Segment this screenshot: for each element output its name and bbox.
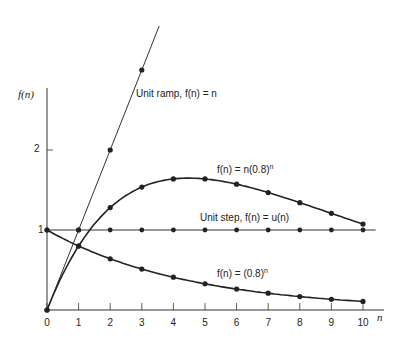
x-tick-label: 0 [44, 317, 50, 328]
x-tick-label: 9 [329, 317, 335, 328]
weighted-decay-point [139, 185, 144, 190]
weighted-decay-point [234, 182, 239, 187]
weighted-decay-curve [47, 178, 363, 310]
decay-point [44, 227, 49, 232]
weighted-decay-point [297, 200, 302, 205]
x-tick-label: 7 [265, 317, 271, 328]
weighted-decay-point [108, 205, 113, 210]
decay-label: f(n) = (0.8)n [217, 267, 268, 279]
step-point [108, 228, 113, 233]
x-tick-label: 4 [171, 317, 177, 328]
step-label: Unit step, f(n) = u(n) [200, 212, 289, 223]
y-tick-2: 2 [34, 143, 40, 154]
decay-point [360, 299, 365, 304]
x-tick-label: 2 [107, 317, 113, 328]
step-point [234, 228, 239, 233]
decay-curve [47, 230, 363, 301]
x-tick-label: 5 [202, 317, 208, 328]
decay-point [297, 294, 302, 299]
decay-point [234, 286, 239, 291]
step-point [297, 228, 302, 233]
decay-point [171, 275, 176, 280]
x-tick-label: 10 [357, 317, 369, 328]
step-point [171, 228, 176, 233]
x-tick-label: 1 [76, 317, 82, 328]
step-point [203, 228, 208, 233]
plot-area: 012345678910 [0, 0, 405, 343]
weighted-decay-point [360, 221, 365, 226]
step-point [329, 228, 334, 233]
step-point [361, 228, 366, 233]
ramp-label: Unit ramp, f(n) = n [136, 88, 217, 99]
x-tick-label: 8 [297, 317, 303, 328]
chart: 012345678910 f(n) 2 1 n Unit ramp, f(n) … [0, 0, 405, 343]
step-point [76, 228, 81, 233]
y-tick-1: 1 [38, 224, 44, 235]
ramp-point [139, 67, 144, 72]
weighted-decay-label: f(n) = n(0.8)n [217, 163, 273, 175]
step-point [266, 228, 271, 233]
weighted-decay-point [44, 307, 49, 312]
decay-point [266, 291, 271, 296]
x-axis-label: n [377, 311, 383, 323]
x-tick-label: 6 [234, 317, 240, 328]
weighted-decay-point [266, 190, 271, 195]
decay-point [202, 281, 207, 286]
decay-point [108, 256, 113, 261]
step-point [139, 228, 144, 233]
ramp-point [108, 147, 113, 152]
weighted-decay-point [171, 176, 176, 181]
weighted-decay-point [329, 211, 334, 216]
x-tick-label: 3 [139, 317, 145, 328]
decay-point [76, 243, 81, 248]
weighted-decay-point [202, 176, 207, 181]
decay-point [329, 297, 334, 302]
decay-point [139, 266, 144, 271]
y-axis-label: f(n) [18, 88, 34, 100]
